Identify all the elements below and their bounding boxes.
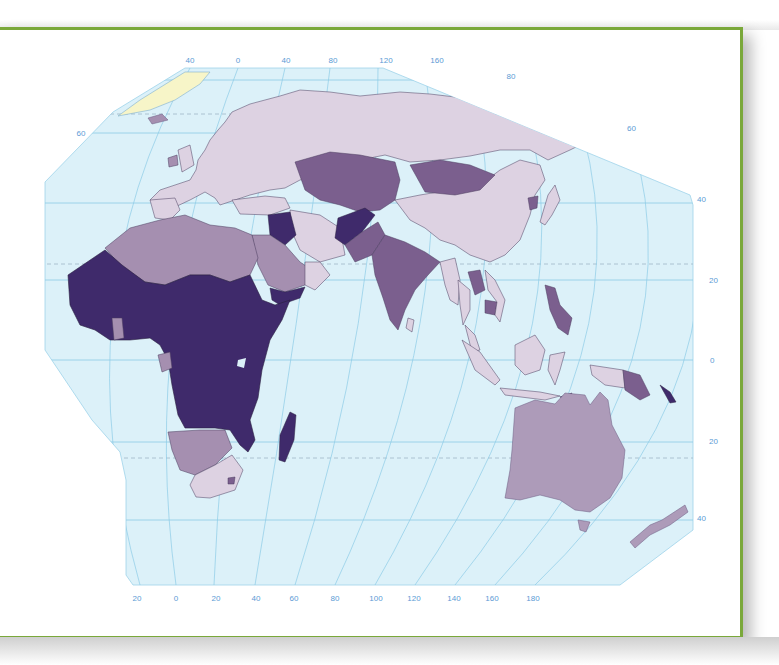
svg-text:80: 80	[329, 56, 338, 65]
svg-text:120: 120	[379, 56, 393, 65]
svg-text:20: 20	[212, 594, 221, 603]
svg-text:0: 0	[710, 356, 715, 365]
svg-text:80: 80	[507, 72, 516, 81]
svg-text:20: 20	[709, 437, 718, 446]
svg-text:60: 60	[627, 124, 636, 133]
svg-text:0: 0	[236, 56, 241, 65]
svg-text:60: 60	[290, 594, 299, 603]
svg-text:160: 160	[485, 594, 499, 603]
longitude-labels-bottom: 20 0 20 40 60 80 100 120 140 160 180	[133, 594, 541, 603]
latitude-labels-left: 60	[77, 129, 86, 138]
svg-text:40: 40	[282, 56, 291, 65]
lesotho	[228, 477, 235, 484]
svg-text:140: 140	[447, 594, 461, 603]
north-korea	[528, 196, 538, 210]
svg-text:120: 120	[407, 594, 421, 603]
svg-text:0: 0	[174, 594, 179, 603]
ghana	[112, 318, 124, 340]
world-map: 40 0 40 80 120 160 80 60 60 40 20 0 20 4…	[0, 0, 779, 665]
australia	[505, 392, 625, 512]
svg-text:60: 60	[77, 129, 86, 138]
svg-text:40: 40	[697, 514, 706, 523]
svg-text:40: 40	[186, 56, 195, 65]
svg-text:40: 40	[252, 594, 261, 603]
svg-text:160: 160	[430, 56, 444, 65]
svg-text:80: 80	[331, 594, 340, 603]
svg-text:40: 40	[697, 195, 706, 204]
svg-text:20: 20	[133, 594, 142, 603]
svg-text:20: 20	[709, 276, 718, 285]
svg-text:100: 100	[369, 594, 383, 603]
svg-text:180: 180	[526, 594, 540, 603]
